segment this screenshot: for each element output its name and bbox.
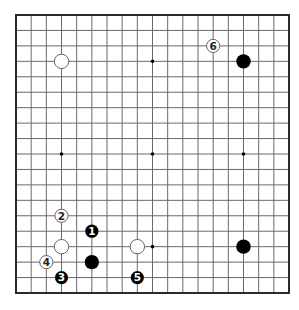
black-stone-icon [85,255,99,269]
star-point [60,152,64,156]
black-stone-icon [236,239,250,253]
star-point [151,152,155,156]
move-number: 4 [43,256,50,268]
star-point [151,245,155,249]
star-point [151,60,155,64]
white-stone [130,239,144,253]
black-stone [236,239,250,253]
white-stone [54,54,68,68]
stone-move-6: 6 [207,39,220,52]
go-board: 621435 [0,0,299,310]
white-stone-icon [54,239,68,253]
black-stone [85,255,99,269]
black-stone-icon [236,54,250,68]
move-number: 1 [88,225,95,237]
go-board-diagram: 621435 [0,0,299,310]
black-stone [236,54,250,68]
move-number: 2 [58,210,65,222]
stone-move-4: 4 [40,256,53,269]
white-stone-icon [54,54,68,68]
stone-move-1: 1 [85,225,98,238]
move-number: 5 [134,271,141,283]
move-number: 3 [58,271,65,283]
stone-move-2: 2 [55,209,68,222]
stone-move-5: 5 [131,271,144,284]
stones: 621435 [40,39,251,284]
white-stone-icon [130,239,144,253]
stone-move-3: 3 [55,271,68,284]
move-number: 6 [210,40,217,52]
star-point [242,152,246,156]
white-stone [54,239,68,253]
